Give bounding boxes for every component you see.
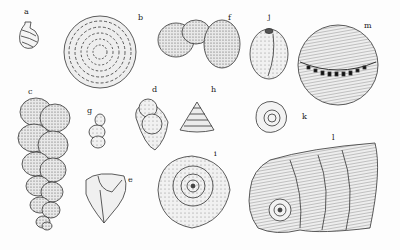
label-h: h [211, 86, 216, 94]
label-g: g [87, 107, 92, 115]
specimen-f [158, 20, 240, 68]
specimen-m [298, 25, 378, 105]
specimen-h [180, 102, 214, 132]
foraminifera-plate: a b c d e f g h i j k l m [0, 0, 400, 250]
specimen-i [158, 156, 230, 228]
specimen-b [64, 16, 136, 88]
label-b: b [138, 14, 143, 22]
label-l: l [332, 134, 335, 142]
specimen-a [20, 22, 39, 48]
label-c: c [28, 88, 32, 96]
specimen-k [256, 101, 287, 132]
specimen-g [89, 114, 105, 148]
illustration [0, 0, 400, 250]
label-i: i [214, 150, 217, 158]
label-j: j [268, 13, 270, 21]
label-e: e [128, 176, 133, 184]
label-f: f [228, 14, 231, 22]
specimen-e [86, 174, 126, 223]
specimen-l [249, 143, 378, 233]
label-k: k [302, 113, 307, 121]
label-d: d [152, 86, 157, 94]
label-a: a [24, 8, 29, 16]
specimen-j [250, 29, 288, 80]
specimen-c [18, 98, 70, 230]
specimen-d [136, 99, 168, 150]
label-m: m [364, 22, 372, 30]
